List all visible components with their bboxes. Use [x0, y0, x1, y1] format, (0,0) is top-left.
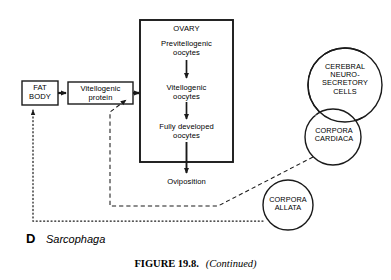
label-corpora-cardiaca: CORPORA CARDIACA: [298, 127, 370, 143]
label-vitellogenic-oocytes: Vitellogenic oocytes: [140, 84, 233, 101]
species-name: Sarcophaga: [46, 233, 105, 245]
label-vitellogenic-protein: Vitellogenic protein: [68, 85, 133, 102]
panel-letter: D: [26, 231, 35, 246]
label-corpora-allata: CORPORA ALLATA: [254, 196, 322, 212]
label-fat-body: FAT BODY: [22, 84, 58, 101]
label-fully-developed-oocytes: Fully developed oocytes: [140, 123, 233, 140]
label-cerebral-neurosecretory-cells: CEREBRAL NEURO- SECRETORY CELLS: [309, 63, 381, 96]
label-ovary-title: OVARY: [140, 25, 233, 34]
label-previtellogenic-oocytes: Previtellogenic oocytes: [140, 40, 233, 57]
figure-caption: FIGURE 19.8.(Continued): [0, 258, 391, 269]
figure-caption-number: FIGURE 19.8.: [134, 258, 198, 269]
figure-panel: FAT BODY Vitellogenic protein OVARY Prev…: [0, 0, 391, 280]
label-oviposition: Oviposition: [140, 178, 233, 187]
figure-caption-note: (Continued): [206, 258, 257, 269]
